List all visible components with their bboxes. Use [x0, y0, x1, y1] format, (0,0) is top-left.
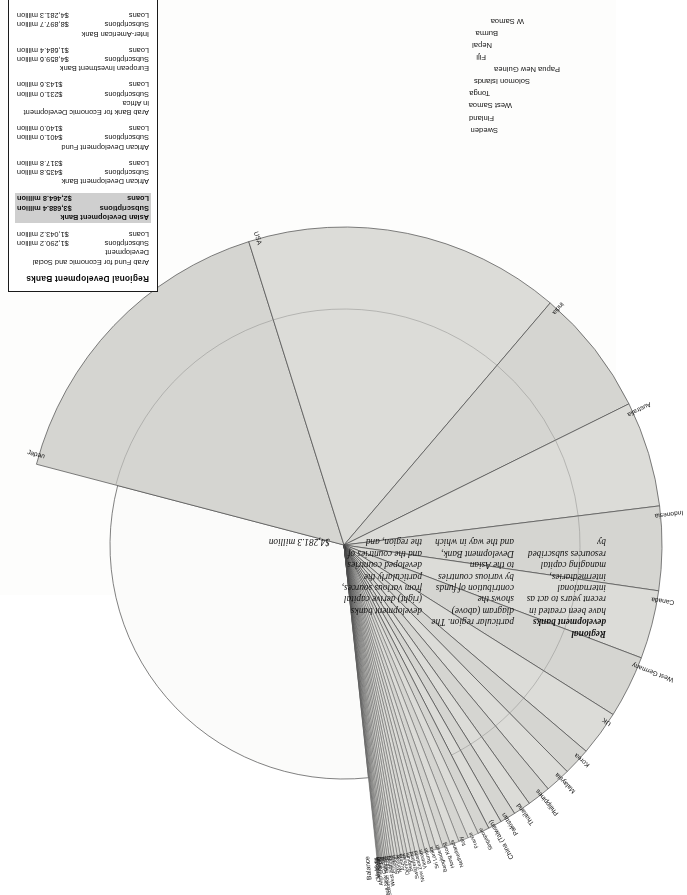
- legend-subscriptions-row: Subscriptions$8,897.7 million: [17, 20, 149, 29]
- pie-wedge-label: Malaysia: [553, 771, 577, 795]
- body-text-2: particular region. The diagram (above) s…: [431, 537, 514, 627]
- legend-bank-entry: Arab Bank for Economic Development in Af…: [17, 80, 149, 117]
- outer-country-label: Papua New Guinea: [494, 65, 560, 74]
- legend-loans-row: Loans$317.8 million: [17, 159, 149, 168]
- legend-loans-row: Loans$1,043.2 million: [17, 230, 149, 239]
- body-column-2: particular region. The diagram (above) s…: [430, 536, 514, 627]
- pie-wedge-label: Balance: [363, 856, 372, 881]
- legend-subscriptions-value: $401.0 million: [17, 133, 63, 142]
- legend-loans-label: Loans: [129, 46, 149, 55]
- legend-loans-value: $1,043.2 million: [17, 230, 69, 239]
- outer-country-label: Fiji: [476, 53, 486, 62]
- legend-subscriptions-label: Subscriptions: [100, 203, 149, 212]
- legend-loans-value: $143.6 million: [17, 80, 63, 89]
- body-column-3: development banks (right) derive capital…: [338, 536, 422, 616]
- legend-loans-value: $317.8 million: [17, 159, 63, 168]
- regional-development-banks-legend: Regional Development Banks Arab Fund for…: [8, 0, 158, 292]
- legend-subscriptions-label: Subscriptions: [105, 168, 149, 177]
- legend-bank-entry: European Investment BankSubscriptions$4,…: [17, 46, 149, 74]
- legend-loans-label: Loans: [129, 80, 149, 89]
- body-text-1: have been created in recent years to act…: [527, 537, 606, 615]
- legend-subscriptions-value: $435.8 million: [17, 168, 63, 177]
- legend-loans-label: Loans: [129, 230, 149, 239]
- legend-subscriptions-row: Subscriptions$435.8 million: [17, 168, 149, 177]
- outer-country-label: Sweden: [471, 126, 498, 135]
- legend-loans-label: Loans: [127, 194, 149, 203]
- legend-bank-name: Arab Fund for Economic and Social Develo…: [17, 248, 149, 266]
- outer-country-label: Burma: [476, 29, 498, 38]
- legend-loans-value: $4,281.3 million: [17, 11, 69, 20]
- legend-bank-name: African Development Fund: [17, 142, 149, 151]
- legend-subscriptions-value: $1,290.2 million: [17, 239, 69, 248]
- legend-subscriptions-value: $8,897.7 million: [17, 20, 69, 29]
- legend-subscriptions-row: Subscriptions$4,859.6 million: [17, 55, 149, 64]
- legend-subscriptions-row: Subscriptions$3,688.4 million: [17, 203, 149, 212]
- legend-loans-label: Loans: [129, 11, 149, 20]
- legend-title: Regional Development Banks: [17, 274, 149, 284]
- legend-bank-name: Inter-American Bank: [17, 29, 149, 38]
- legend-bank-entry: African Development BankSubscriptions$43…: [17, 159, 149, 187]
- legend-subscriptions-value: $3,688.4 million: [17, 203, 72, 212]
- legend-subscriptions-row: Subscriptions$401.0 million: [17, 133, 149, 142]
- legend-loans-label: Loans: [129, 159, 149, 168]
- legend-bank-entry: Inter-American BankSubscriptions$8,897.7…: [17, 11, 149, 39]
- body-column-4: $4,281.3 million: [246, 536, 330, 547]
- body-heading: Regional development banks: [533, 617, 606, 638]
- pie-wedge-label: France: [467, 832, 480, 850]
- body-column-1: Regional development banks have been cre…: [522, 536, 606, 639]
- legend-subscriptions-value: $4,859.6 million: [17, 55, 69, 64]
- legend-loans-row: Loans$140.0 million: [17, 124, 149, 133]
- legend-loans-row: Loans$143.6 million: [17, 80, 149, 89]
- legend-subscriptions-label: Subscriptions: [105, 133, 149, 142]
- outer-country-label: Tonga: [469, 89, 490, 98]
- body-text-4: $4,281.3 million: [269, 537, 330, 547]
- legend-subscriptions-label: Subscriptions: [105, 239, 149, 248]
- legend-loans-row: Loans$1,684.4 million: [17, 46, 149, 55]
- legend-bank-name: Asian Development Bank: [17, 213, 149, 222]
- legend-bank-name: African Development Bank: [17, 177, 149, 186]
- legend-loans-label: Loans: [129, 124, 149, 133]
- legend-subscriptions-value: $231.0 million: [17, 89, 63, 98]
- body-text-3: development banks (right) derive capital…: [342, 537, 422, 615]
- legend-subscriptions-label: Subscriptions: [105, 55, 149, 64]
- outer-country-label: West Samoa: [469, 101, 512, 110]
- pie-wedge-label: West Germany: [630, 661, 674, 684]
- legend-bank-entry: Asian Development BankSubscriptions$3,68…: [15, 193, 151, 223]
- outer-country-label: Finland: [469, 114, 494, 123]
- legend-loans-row: Loans$4,281.3 million: [17, 11, 149, 20]
- pie-wedge-label: Philippines: [533, 787, 560, 817]
- outer-country-label: Solomon Islands: [474, 77, 530, 86]
- outer-country-label: Nepal: [472, 41, 492, 50]
- legend-subscriptions-row: Subscriptions$1,290.2 million: [17, 239, 149, 248]
- legend-subscriptions-label: Subscriptions: [105, 20, 149, 29]
- legend-loans-value: $140.0 million: [17, 124, 63, 133]
- legend-bank-name: European Investment Bank: [17, 64, 149, 73]
- legend-bank-entry: Arab Fund for Economic and Social Develo…: [17, 230, 149, 267]
- legend-subscriptions-label: Subscriptions: [105, 89, 149, 98]
- legend-bank-name: Arab Bank for Economic Development in Af…: [17, 99, 149, 117]
- legend-loans-value: $2,464.8 million: [17, 194, 72, 203]
- legend-subscriptions-row: Subscriptions$231.0 million: [17, 89, 149, 98]
- legend-loans-value: $1,684.4 million: [17, 46, 69, 55]
- legend-loans-row: Loans$2,464.8 million: [17, 194, 149, 203]
- legend-bank-entry: African Development FundSubscriptions$40…: [17, 124, 149, 152]
- outer-country-label: W Samoa: [491, 17, 524, 26]
- legend-bank-list: Arab Fund for Economic and Social Develo…: [17, 11, 149, 267]
